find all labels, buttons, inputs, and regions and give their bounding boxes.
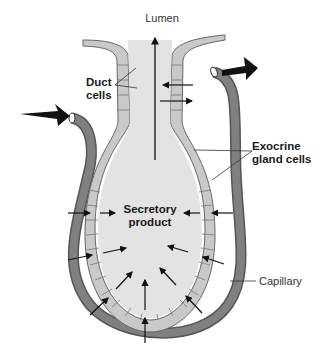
- lumen-space: [98, 40, 202, 318]
- exocrine-label-line2: gland cells: [252, 153, 311, 166]
- capillary-label: Capillary: [259, 275, 302, 288]
- duct-cells-label-line2: cells: [86, 89, 112, 102]
- blood-in-arrow: [20, 104, 70, 126]
- lumen-label: Lumen: [138, 12, 186, 25]
- exocrine-label-line1: Exocrine: [252, 140, 301, 153]
- secretory-label-line2: product: [118, 216, 182, 229]
- diagram-graphic: [0, 0, 323, 362]
- exocrine-gland-diagram: Lumen Duct cells Exocrine gland cells Se…: [0, 0, 323, 362]
- duct-cells-label-line1: Duct: [86, 76, 112, 89]
- secretory-label-line1: Secretory: [118, 203, 182, 216]
